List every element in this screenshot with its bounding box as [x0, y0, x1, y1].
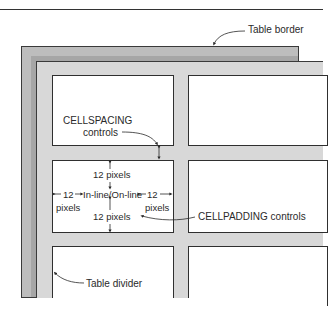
annotation-arrows — [0, 0, 323, 314]
